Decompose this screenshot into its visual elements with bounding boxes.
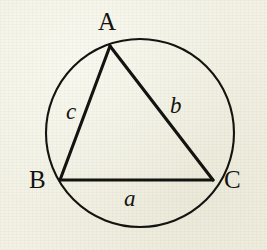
- vertex-label-c: C: [224, 167, 241, 192]
- circumcircle: [46, 39, 234, 227]
- figure-drawing: [0, 0, 267, 250]
- vertex-label-b: B: [29, 167, 46, 192]
- triangle-side-ac: [110, 46, 213, 180]
- vertex-label-a: A: [98, 9, 116, 34]
- side-label-c: c: [66, 100, 76, 123]
- side-label-b: b: [170, 94, 182, 117]
- geometry-figure: A B C a b c: [0, 0, 267, 250]
- side-label-a: a: [124, 187, 136, 210]
